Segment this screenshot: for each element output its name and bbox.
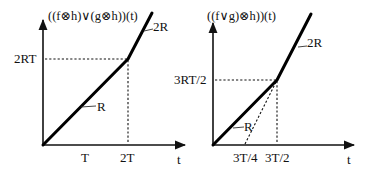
left-x-tick-2t: 2T bbox=[120, 150, 135, 165]
left-slope-2r-label: 2R bbox=[153, 19, 169, 34]
left-slope-r-label: R bbox=[97, 99, 106, 114]
right-panel: ((f∨g)⊗h))(t) R 2R 3RT/2 3T/4 3T/2 t bbox=[174, 9, 354, 167]
diagram-canvas: ((f⊗h)∨(g⊗h))(t) R 2R 2RT T 2T t ((f∨g)⊗… bbox=[0, 0, 372, 173]
left-panel: ((f⊗h)∨(g⊗h))(t) R 2R 2RT T 2T t bbox=[14, 9, 185, 167]
left-x-tick-t: T bbox=[81, 150, 89, 165]
right-x-tick-3t2: 3T/2 bbox=[265, 150, 290, 165]
right-dashed-helper bbox=[245, 82, 276, 144]
right-y-tick-3rt2: 3RT/2 bbox=[174, 72, 206, 87]
right-r-leader bbox=[233, 127, 244, 128]
right-2r-leader bbox=[298, 46, 307, 47]
left-2r-leader bbox=[144, 29, 153, 31]
right-slope-r-label: R bbox=[244, 119, 253, 134]
right-slope-2r-label: 2R bbox=[307, 35, 323, 50]
left-x-axis-label: t bbox=[177, 152, 181, 167]
left-y-tick-2rt: 2RT bbox=[14, 51, 36, 66]
left-curve bbox=[43, 13, 152, 145]
right-panel-title: ((f∨g)⊗h))(t) bbox=[207, 9, 276, 23]
right-x-tick-3t4: 3T/4 bbox=[233, 150, 258, 165]
left-panel-title: ((f⊗h)∨(g⊗h))(t) bbox=[48, 9, 138, 23]
right-x-axis-label: t bbox=[347, 152, 351, 167]
